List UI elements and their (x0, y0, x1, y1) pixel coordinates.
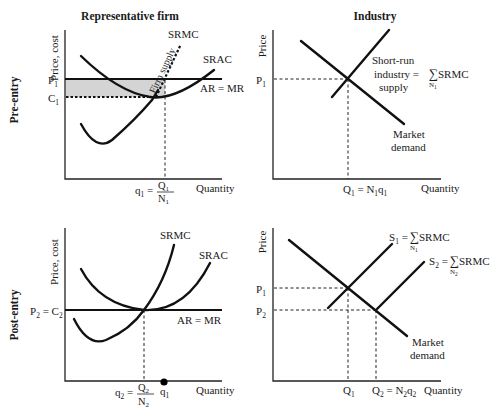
x-axis-label: Quantity (196, 384, 235, 396)
svg-text:∑: ∑ (450, 253, 459, 268)
x-axis-label: Quantity (424, 384, 463, 396)
y-axis-label: Price, cost (48, 239, 60, 285)
svg-text:N1: N1 (429, 81, 437, 90)
axes (273, 30, 441, 179)
srac-label: SRAC (203, 53, 232, 65)
svg-text:industry =: industry = (374, 68, 419, 80)
q1-marker-label: q1 (160, 385, 170, 400)
p1-label: P1 (256, 74, 266, 89)
srmc-curve (81, 90, 158, 144)
supply-label-line3: supply (379, 81, 409, 93)
srac-label: SRAC (199, 249, 228, 261)
title-industry: Industry (354, 10, 397, 23)
s2-supply-curve (377, 262, 424, 309)
row-label-post-entry: Post-entry (8, 289, 21, 340)
ar-mr-label: AR = MR (177, 314, 222, 326)
srmc-curve (74, 245, 174, 341)
q1-label: Q1 (343, 384, 355, 399)
svg-text:SRMC: SRMC (438, 68, 469, 80)
svg-text:N1: N1 (410, 244, 418, 253)
panel-post-entry-firm: Price, cost Quantity SRMC SRAC AR = MR P… (30, 228, 235, 409)
title-representative-firm: Representative firm (81, 10, 179, 23)
q1-formula: q1 = Q1 N1 (135, 180, 174, 206)
svg-text:N2: N2 (450, 268, 458, 277)
srmc-label: SRMC (160, 229, 191, 241)
panel-pre-entry-industry: Price Quantity P1 Short-run industry = ∑… (256, 30, 469, 198)
svg-text:SRMC: SRMC (459, 255, 490, 267)
row-label-pre-entry: Pre-entry (8, 76, 21, 123)
svg-text:∑: ∑ (429, 66, 438, 81)
svg-text:N1: N1 (158, 193, 170, 206)
svg-text:Q1: Q1 (158, 180, 170, 193)
q2-formula: q2 = Q2 N2 (115, 382, 154, 409)
svg-text:∑: ∑ (410, 229, 419, 244)
demand-label-line1: Market (393, 128, 425, 140)
p2-c2-label: P2 = C2 (30, 305, 63, 320)
svg-text:S2 =: S2 = (429, 255, 448, 270)
q1-formula: Q1 = N1q1 (343, 183, 388, 198)
demand-label-line2: demand (391, 141, 426, 153)
panel-pre-entry-firm: Price, cost Quantity SRMC SRAC AR = MR F… (48, 28, 245, 206)
srac-curve (81, 263, 210, 310)
c1-label: C1 (48, 92, 59, 107)
srmc-label: SRMC (168, 28, 199, 40)
svg-text:Q2: Q2 (138, 382, 150, 395)
axes (65, 30, 222, 179)
y-axis-label: Price (256, 35, 268, 58)
panel-post-entry-industry: Price P1 P2 S1 = ∑ SRMC N1 S2 = ∑ SRMC N… (256, 228, 490, 399)
svg-text:SRMC: SRMC (419, 231, 450, 243)
q2-formula: Q2 = N2q2 (372, 384, 417, 399)
s1-label: S1 = ∑ SRMC N1 (389, 229, 450, 253)
p1-label: P1 (256, 283, 266, 298)
entry-diagram: Representative firm Industry Pre-entry P… (0, 0, 499, 418)
y-axis-label: Price (256, 231, 268, 254)
svg-text:N2: N2 (138, 396, 150, 409)
ar-mr-label: AR = MR (200, 82, 245, 94)
s2-label: S2 = ∑ SRMC N2 (429, 253, 490, 277)
svg-text:q1 =: q1 = (135, 184, 153, 199)
supply-label-line1: Short-run (372, 54, 415, 66)
svg-text:q2 =: q2 = (115, 386, 133, 401)
x-axis-label: Quantity (196, 182, 235, 194)
x-axis-label: Quantity (421, 182, 460, 194)
demand-label-line1: Market (412, 336, 444, 348)
p2-label: P2 (256, 305, 266, 320)
demand-label-line2: demand (410, 349, 445, 361)
